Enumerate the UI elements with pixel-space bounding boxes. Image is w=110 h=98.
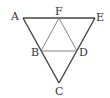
label-A: A — [10, 10, 20, 23]
label-C: C — [55, 85, 63, 98]
label-B: B — [31, 46, 39, 59]
inner-triangle — [41, 18, 77, 51]
segment-FB — [41, 18, 59, 51]
label-F: F — [55, 5, 63, 18]
triangle-diagram: A F E B D C — [0, 0, 110, 98]
label-E: E — [96, 11, 104, 24]
label-D: D — [79, 46, 88, 59]
segment-FD — [59, 18, 77, 51]
